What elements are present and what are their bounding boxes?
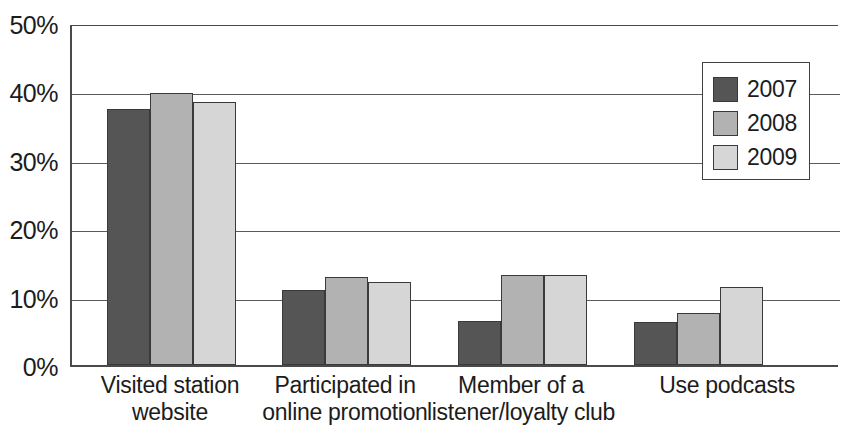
bar-2009 bbox=[193, 102, 236, 365]
y-axis-tick-0: 0% bbox=[0, 355, 58, 380]
legend: 2007 2008 2009 bbox=[702, 62, 810, 180]
bar-2007 bbox=[282, 290, 325, 365]
legend-item-label: 2007 bbox=[747, 78, 797, 101]
legend-item-label: 2008 bbox=[747, 112, 797, 135]
bar-2008 bbox=[677, 313, 720, 365]
bar-2008 bbox=[150, 93, 193, 365]
legend-item-2008[interactable]: 2008 bbox=[713, 106, 809, 140]
legend-swatch-icon bbox=[713, 111, 738, 136]
legend-swatch-icon bbox=[713, 145, 738, 170]
bar-group-member-listener-loyalty-club bbox=[458, 25, 588, 365]
y-axis-tick-20: 20% bbox=[0, 218, 58, 243]
legend-item-label: 2009 bbox=[747, 146, 797, 169]
x-axis-label-member-listener-loyalty-club: Member of a listener/loyalty club bbox=[404, 372, 638, 426]
bar-2009 bbox=[720, 287, 763, 365]
x-axis-label-line1: Member of a bbox=[404, 372, 638, 399]
legend-swatch-icon bbox=[713, 77, 738, 102]
bar-2008 bbox=[501, 275, 544, 365]
legend-item-2007[interactable]: 2007 bbox=[713, 72, 809, 106]
legend-item-2009[interactable]: 2009 bbox=[713, 140, 809, 174]
bar-2007 bbox=[458, 321, 501, 365]
bar-group-participated-online-promotion bbox=[282, 25, 412, 365]
bar-2009 bbox=[544, 275, 587, 365]
bar-group-visited-station-website bbox=[107, 25, 237, 365]
bar-2009 bbox=[368, 282, 411, 365]
x-axis-label-line2: listener/loyalty club bbox=[404, 399, 638, 426]
x-axis-label-use-podcasts: Use podcasts bbox=[610, 372, 841, 399]
bar-chart: 50% 40% 30% 20% 10% 0% bbox=[0, 0, 841, 426]
bar-2007 bbox=[107, 109, 150, 365]
x-axis-baseline bbox=[70, 365, 838, 367]
x-axis-label-line1: Use podcasts bbox=[610, 372, 841, 399]
y-axis-tick-10: 10% bbox=[0, 287, 58, 312]
bar-2007 bbox=[634, 322, 677, 365]
y-axis-tick-50: 50% bbox=[0, 13, 58, 38]
bar-2008 bbox=[325, 277, 368, 365]
y-axis-tick-30: 30% bbox=[0, 150, 58, 175]
y-axis-tick-40: 40% bbox=[0, 81, 58, 106]
